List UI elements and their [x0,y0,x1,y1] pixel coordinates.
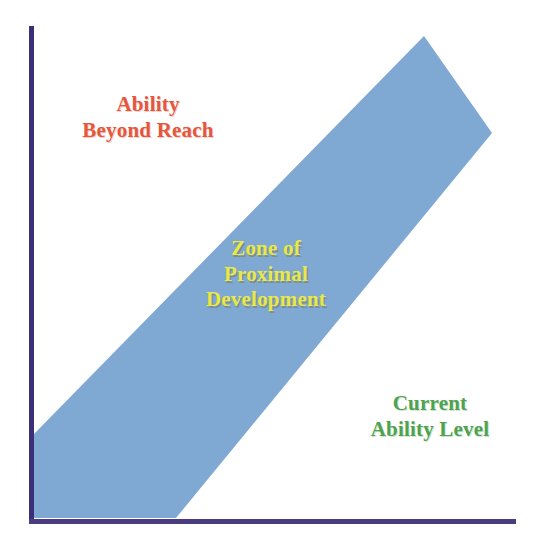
zpd-diagram: Ability Beyond Reach Zone of Proximal De… [0,0,540,556]
label-current-ability-level: Current Ability Level [340,391,520,442]
vertical-axis [29,26,34,524]
label-ability-beyond-reach: Ability Beyond Reach [48,92,248,143]
horizontal-axis [29,519,516,524]
label-zone-of-proximal-development: Zone of Proximal Development [168,236,364,313]
